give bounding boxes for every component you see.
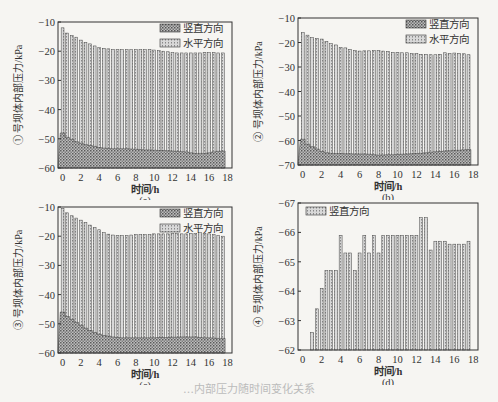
legend-swatch <box>160 209 180 217</box>
y-tick-label: −10 <box>279 13 295 24</box>
legend-label: 竖直方向 <box>183 207 223 219</box>
bar-vertical <box>377 253 380 350</box>
bar-vertical <box>443 241 446 350</box>
chart-svg-d: −62−63−64−65−66−67024681012141618时间/h(d)… <box>250 195 498 385</box>
x-tick-label: 14 <box>430 354 441 365</box>
x-tick-label: 8 <box>133 172 138 183</box>
y-tick-label: −67 <box>279 198 295 209</box>
y-tick-label: −20 <box>39 46 55 57</box>
bar-horizontal <box>130 235 133 353</box>
x-tick-label: 2 <box>78 172 83 183</box>
x-tick-label: 8 <box>376 169 381 180</box>
x-tick-label: 0 <box>60 357 65 368</box>
legend-swatch <box>160 224 180 232</box>
y-tick-label: −50 <box>39 134 55 145</box>
y-tick-label: −30 <box>39 260 55 271</box>
bar-vertical <box>467 241 470 350</box>
bar-vertical <box>349 253 352 350</box>
bar-horizontal <box>334 45 337 165</box>
y-tick-label: −20 <box>279 38 295 49</box>
legend-label: 水平方向 <box>183 222 223 234</box>
bar-vertical <box>391 235 394 350</box>
bar-vertical <box>363 235 366 350</box>
bar-horizontal <box>194 233 197 353</box>
y-tick-label: −30 <box>39 75 55 86</box>
bar-horizontal <box>325 41 328 165</box>
chart-svg-c: −60−50−40−30−20−10024681012141618时间/h(c)… <box>0 195 250 385</box>
bar-horizontal <box>453 53 456 165</box>
bar-vertical <box>382 235 385 350</box>
bar-horizontal <box>330 44 333 165</box>
x-tick-label: 6 <box>115 357 120 368</box>
legend-label: 竖直方向 <box>329 205 369 217</box>
bar-horizontal <box>467 55 470 165</box>
bar-horizontal <box>363 51 366 165</box>
chart-panel-b: −70−60−50−40−30−20−10024681012141618时间/h… <box>250 0 498 200</box>
bar-horizontal <box>434 55 437 165</box>
bar-vertical <box>424 218 427 350</box>
x-tick-label: 16 <box>204 357 215 368</box>
legend: 竖直方向 <box>306 205 369 217</box>
x-tick-label: 10 <box>392 169 403 180</box>
bar-horizontal <box>157 234 160 353</box>
y-tick-label: −66 <box>279 227 295 238</box>
bar-vertical <box>415 235 418 350</box>
bar-horizontal <box>344 48 347 165</box>
bar-horizontal <box>144 235 147 353</box>
bar-horizontal <box>107 234 110 353</box>
y-tick-label: −64 <box>279 286 296 297</box>
x-axis-label: 时间/h <box>131 183 160 195</box>
y-tick-label: −30 <box>279 62 295 73</box>
bar-horizontal <box>180 234 183 353</box>
bar-horizontal <box>217 53 220 168</box>
bar-horizontal <box>443 53 446 165</box>
bar-vertical <box>458 244 461 350</box>
figure-caption: …内部压力随时间变化关系 <box>0 380 498 396</box>
legend-label: 水平方向 <box>429 33 469 45</box>
y-tick-label: −20 <box>39 231 55 242</box>
bar-horizontal <box>387 52 390 165</box>
bar-horizontal <box>203 233 206 353</box>
bar-horizontal <box>349 49 352 165</box>
y-axis-label: ① 号坝体内部压力/kPa <box>12 44 24 145</box>
x-tick-label: 4 <box>97 357 103 368</box>
chart-panel-c: −60−50−40−30−20−10024681012141618时间/h(c)… <box>0 195 250 385</box>
bar-vertical <box>339 235 342 350</box>
bar-horizontal <box>311 38 314 165</box>
x-tick-label: 14 <box>186 172 197 183</box>
x-tick-label: 4 <box>338 354 344 365</box>
bars-d <box>311 218 470 350</box>
bar-horizontal <box>176 234 179 353</box>
legend-swatch <box>306 207 326 215</box>
bar-horizontal <box>439 54 442 165</box>
bar-horizontal <box>420 54 423 165</box>
x-tick-label: 4 <box>97 172 103 183</box>
bar-horizontal <box>199 233 202 353</box>
bar-horizontal <box>415 54 418 165</box>
bar-horizontal <box>116 236 119 353</box>
bar-vertical <box>396 235 399 350</box>
bar-horizontal <box>139 235 142 353</box>
bar-horizontal <box>217 236 220 353</box>
y-axis-label: ② 号坝体内部压力/kPa <box>252 41 264 142</box>
y-tick-label: −10 <box>39 202 55 213</box>
x-tick-label: 18 <box>468 169 479 180</box>
x-tick-label: 2 <box>78 357 83 368</box>
x-tick-label: 2 <box>319 354 324 365</box>
bar-horizontal <box>185 53 188 168</box>
bar-vertical <box>448 244 451 350</box>
bar-horizontal <box>429 55 432 165</box>
bar-vertical <box>353 271 356 350</box>
bar-horizontal <box>176 53 179 168</box>
bar-horizontal <box>185 234 188 353</box>
y-tick-label: −50 <box>39 319 55 330</box>
x-tick-label: 12 <box>167 357 178 368</box>
legend: 竖直方向水平方向 <box>160 22 223 49</box>
bar-horizontal <box>448 54 451 165</box>
x-tick-label: 0 <box>60 172 65 183</box>
bar-horizontal <box>396 52 399 165</box>
bar-vertical <box>439 241 442 350</box>
legend-swatch <box>406 35 426 43</box>
y-tick-label: −60 <box>279 136 295 147</box>
x-tick-label: 10 <box>149 172 160 183</box>
